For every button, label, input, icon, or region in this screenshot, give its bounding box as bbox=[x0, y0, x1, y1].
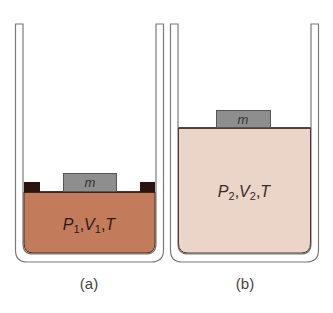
stop-left-a bbox=[24, 182, 40, 192]
state-label-b: P2,V2,T bbox=[218, 183, 272, 202]
diagram-canvas: m P1,V1,T (a) m P2,V2,T (b) bbox=[0, 0, 333, 313]
caption-b: (b) bbox=[236, 275, 254, 292]
cylinder-a: m P1,V1,T (a) bbox=[16, 24, 164, 292]
caption-a: (a) bbox=[80, 275, 98, 292]
cylinder-b: m P2,V2,T (b) bbox=[171, 24, 319, 292]
mass-label-a: m bbox=[85, 175, 96, 190]
state-label-a: P1,V1,T bbox=[63, 216, 117, 235]
mass-label-b: m bbox=[238, 112, 249, 127]
stop-right-a bbox=[140, 182, 155, 192]
